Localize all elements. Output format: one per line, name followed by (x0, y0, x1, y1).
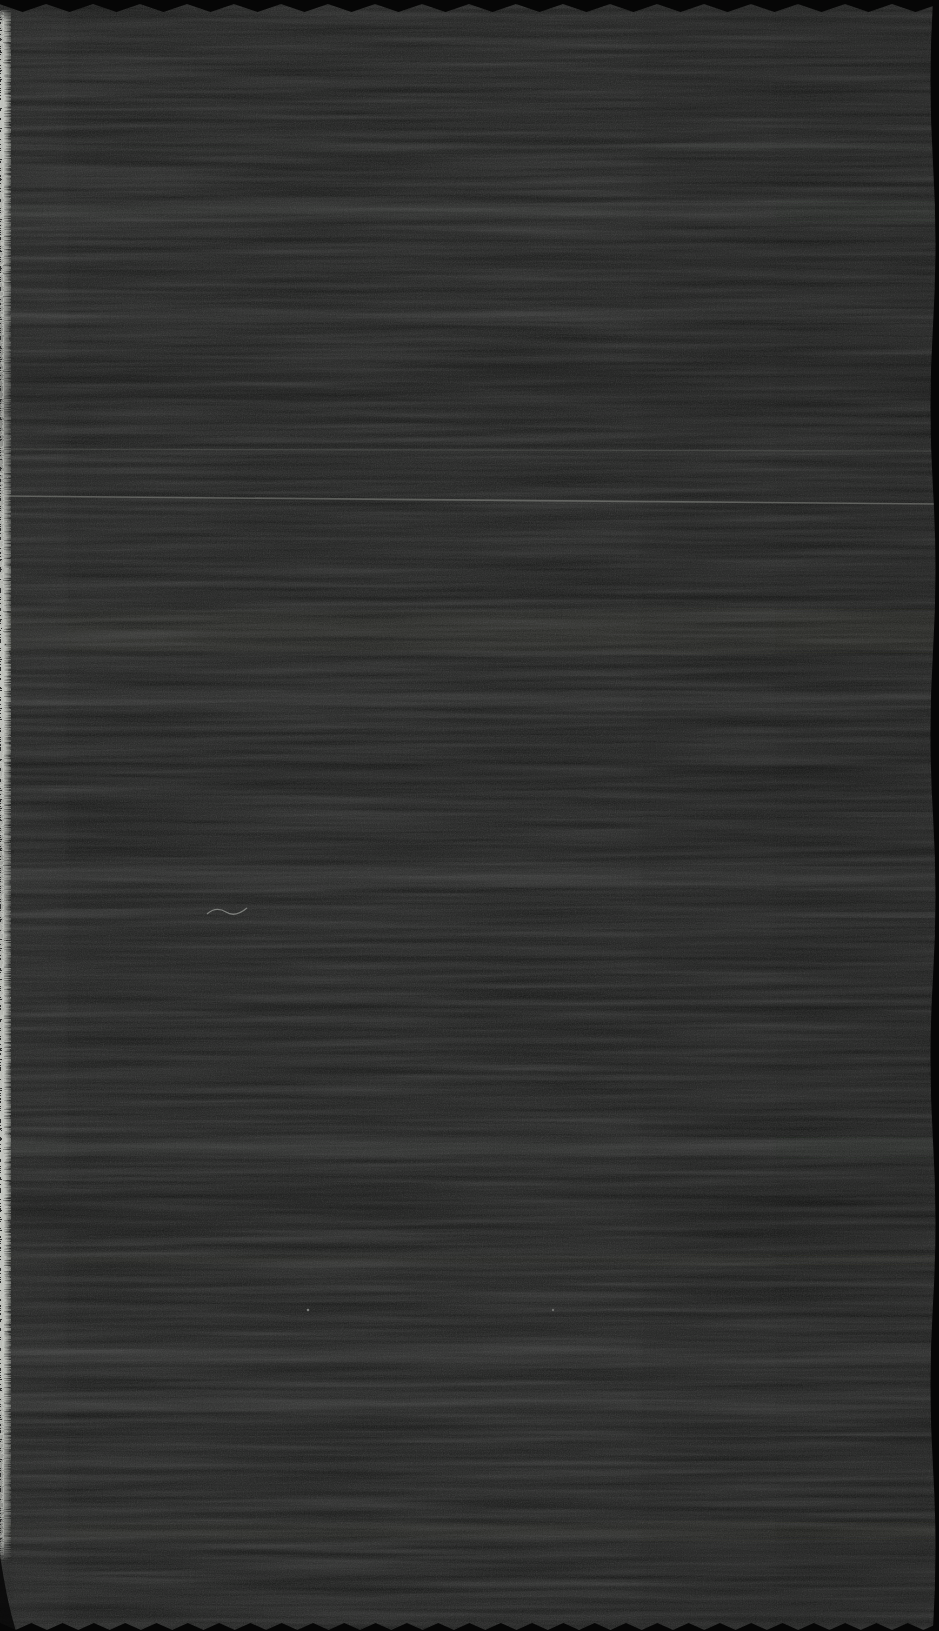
weave-shade-column (775, 0, 939, 1631)
frayed-selvage-core (0, 8, 4, 1558)
dust-speck (307, 1309, 310, 1312)
dust-speck (552, 1309, 554, 1311)
weave-light-column (12, 0, 67, 1631)
scan-canvas (0, 0, 939, 1631)
fabric-swatch-scan (0, 0, 939, 1631)
